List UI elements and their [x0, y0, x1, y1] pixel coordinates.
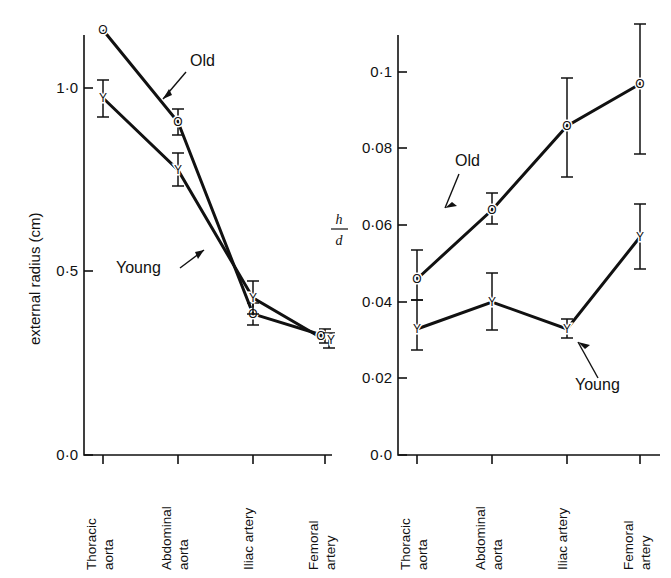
right-old-marker-1: O [487, 203, 496, 217]
right-series-old-line [417, 84, 640, 279]
chart-svg: 0·0 0·5 1·0 external radius (cm) Thoraci… [0, 0, 671, 578]
left-ytick-label-1: 0·5 [56, 262, 78, 279]
left-annotation-old-label: Old [190, 52, 215, 69]
right-series-young-line [417, 237, 640, 329]
left-annotation-young-label: Young [116, 259, 161, 276]
left-annotation-young: Young [116, 250, 204, 276]
right-old-markers: O O O O O O O O [412, 77, 644, 286]
right-x-ticks [417, 455, 640, 464]
left-series-old-line [103, 30, 325, 336]
left-axis-lines [84, 35, 332, 455]
left-panel: 0·0 0·5 1·0 external radius (cm) Thoraci… [26, 23, 338, 570]
left-y-ticks [84, 88, 93, 455]
left-y-axis-label: external radius (cm) [26, 212, 43, 345]
right-cat-0-line1: Thoracic [398, 518, 413, 570]
right-ytick-label-0: 0·0 [370, 446, 392, 463]
right-young-marker-1: Y [488, 295, 496, 309]
right-category-labels: Thoracic aorta Abdominal aorta Iliac art… [398, 506, 653, 570]
right-cat-1-line1: Abdominal [473, 506, 488, 570]
right-cat-0-line2: aorta [415, 539, 430, 570]
left-cat-2-line1: Iliac artery [241, 507, 256, 570]
right-axis-lines [398, 35, 660, 455]
left-ytick-label-0: 0·0 [56, 446, 78, 463]
right-y-ticks [398, 72, 407, 455]
right-y-axis-numerator: h [336, 212, 343, 227]
left-x-ticks [103, 455, 325, 464]
left-series-young-points [97, 80, 335, 348]
right-cat-1-line2: aorta [490, 539, 505, 570]
right-cat-3-line1: Femoral [621, 520, 636, 570]
left-series-young-line [103, 98, 325, 340]
left-cat-1-line1: Abdominal [159, 506, 174, 570]
right-ytick-label-2: 0·04 [362, 293, 392, 310]
right-y-axis-denominator: d [336, 233, 344, 248]
right-annotation-old-label: Old [455, 152, 480, 169]
left-annotation-old: Old [163, 52, 215, 99]
right-ytick-label-4: 0·08 [362, 139, 392, 156]
left-young-marker-1: Y [174, 163, 182, 177]
right-annotation-old: Old [445, 152, 480, 208]
right-ytick-label-1: 0·02 [362, 369, 392, 386]
right-annotation-young-label: Young [575, 376, 620, 393]
right-y-axis-label: h d [331, 212, 348, 248]
left-old-markers: O O O O O O O O [98, 23, 325, 343]
right-ytick-label-3: 0·06 [362, 216, 392, 233]
left-cat-3-line1: Femoral [306, 520, 321, 570]
right-old-marker-0: O [412, 272, 421, 286]
left-cat-0-line2: aorta [101, 539, 116, 570]
right-panel: 0·0 0·02 0·04 0·06 0·08 0·1 h d Thoracic… [331, 24, 660, 570]
right-series-young-points [411, 204, 646, 350]
right-cat-3-line2: artery [638, 535, 653, 570]
right-young-markers: Y Y Y Y Y Y Y Y [413, 230, 644, 336]
left-category-labels: Thoracic aorta Abdominal aorta Iliac art… [84, 506, 338, 570]
left-old-marker-1: O [173, 115, 182, 129]
right-old-marker-3: O [635, 77, 644, 91]
right-young-marker-2: Y [563, 322, 571, 336]
left-ytick-label-2: 1·0 [56, 79, 78, 96]
right-old-marker-2: O [562, 119, 571, 133]
left-young-marker-3: Y [327, 333, 335, 347]
figure-canvas: 0·0 0·5 1·0 external radius (cm) Thoraci… [0, 0, 671, 578]
left-old-marker-0: O [98, 23, 107, 37]
left-cat-1-line2: aorta [176, 539, 191, 570]
right-young-marker-0: Y [413, 322, 421, 336]
left-young-marker-0: Y [99, 91, 107, 105]
right-young-marker-3: Y [636, 230, 644, 244]
right-annotation-young: Young [575, 342, 620, 393]
left-cat-0-line1: Thoracic [84, 518, 99, 570]
left-old-marker-3: O [316, 329, 325, 343]
right-series-old-points [411, 24, 646, 300]
right-ytick-label-5: 0·1 [370, 63, 392, 80]
left-cat-3-line2: artery [323, 535, 338, 570]
right-cat-2-line1: Iliac artery [555, 507, 570, 570]
left-young-marker-2: Y [249, 291, 257, 305]
